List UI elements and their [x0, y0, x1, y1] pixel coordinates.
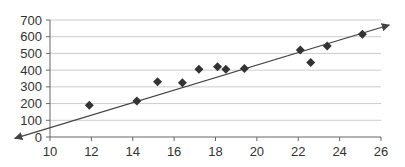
x-tick-label: 18 — [208, 144, 222, 159]
x-tick-label: 14 — [126, 144, 140, 159]
x-axis-ticks: 101214161820222426 — [43, 137, 388, 159]
y-axis-ticks: 0100200300400500600700 — [20, 13, 50, 145]
diamond-marker — [194, 65, 203, 74]
diamond-marker — [240, 64, 249, 73]
x-tick-label: 26 — [374, 144, 388, 159]
scatter-chart: 0100200300400500600700 10121416182022242… — [0, 0, 405, 167]
y-tick-label: 400 — [20, 63, 42, 78]
y-tick-label: 300 — [20, 79, 42, 94]
trend-line — [15, 25, 389, 138]
diamond-marker — [85, 101, 94, 110]
gridlines — [50, 20, 381, 120]
diamond-marker — [153, 77, 162, 86]
x-tick-label: 16 — [167, 144, 181, 159]
x-tick-label: 10 — [43, 144, 57, 159]
x-tick-label: 22 — [291, 144, 305, 159]
y-tick-label: 200 — [20, 96, 42, 111]
x-tick-label: 12 — [84, 144, 98, 159]
diamond-marker — [358, 30, 367, 39]
y-tick-label: 600 — [20, 29, 42, 44]
x-tick-label: 20 — [250, 144, 264, 159]
axes — [50, 20, 381, 137]
trend-line-arrow — [15, 25, 389, 138]
x-tick-label: 24 — [332, 144, 346, 159]
y-tick-label: 700 — [20, 13, 42, 28]
diamond-marker — [221, 65, 230, 74]
diamond-marker — [306, 58, 315, 67]
diamond-marker — [178, 78, 187, 87]
y-tick-label: 100 — [20, 113, 42, 128]
y-tick-label: 500 — [20, 46, 42, 61]
diamond-marker — [132, 97, 141, 106]
